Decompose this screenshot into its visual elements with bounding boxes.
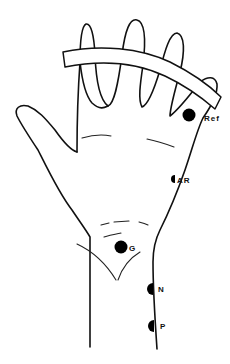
- electrode-p-dot: [148, 320, 154, 332]
- electrode-ref-label: Ref: [204, 114, 220, 123]
- electrode-g-dot: [115, 241, 128, 254]
- electrode-ref-dot: [183, 109, 196, 122]
- electrode-ar-label: AR: [177, 176, 191, 185]
- electrode-g: G: [115, 241, 137, 254]
- electrode-g-label: G: [129, 244, 136, 253]
- palm-creases: [77, 135, 174, 280]
- electrode-n-dot: [147, 283, 153, 295]
- wrist-creases: [101, 221, 148, 237]
- electrode-n: N: [147, 283, 165, 295]
- electrode-p: P: [148, 320, 166, 332]
- electrode-ar: AR: [171, 175, 191, 185]
- electrode-n-label: N: [158, 285, 165, 294]
- finger-strap: [63, 48, 221, 109]
- electrode-ar-dot: [171, 175, 175, 183]
- electrode-p-label: P: [160, 322, 166, 331]
- hand-electrode-diagram: Ref AR G N P: [0, 0, 230, 364]
